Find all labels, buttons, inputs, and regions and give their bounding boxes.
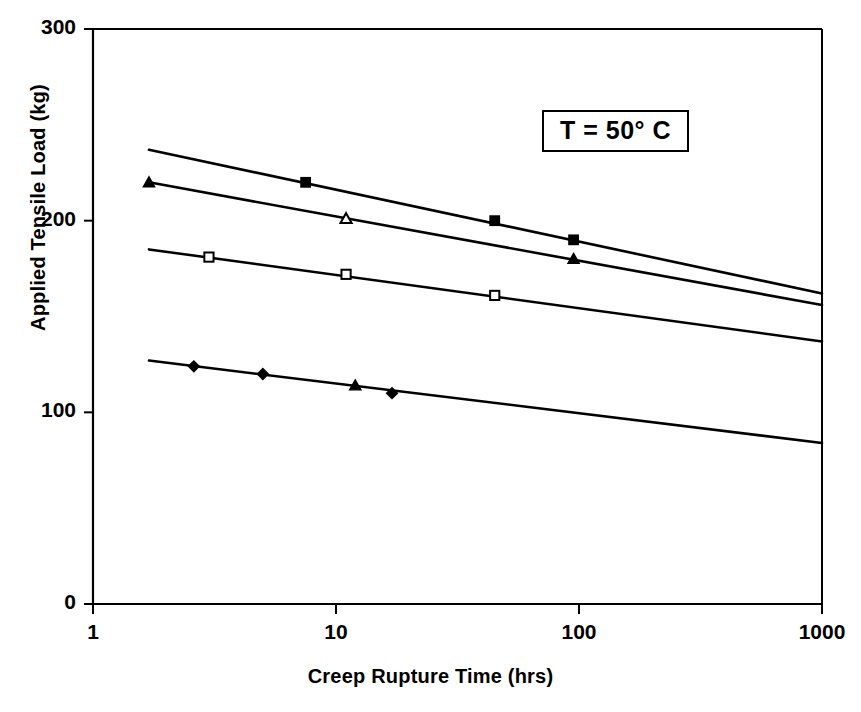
marker-filled-square — [490, 216, 499, 225]
marker-filled-diamond — [188, 361, 199, 372]
x-tick-label: 1 — [53, 620, 133, 644]
series-series-2 — [143, 177, 822, 305]
marker-open-triangle — [340, 213, 351, 223]
marker-open-square — [341, 270, 350, 279]
chart-plot-area — [0, 0, 861, 712]
marker-filled-square — [301, 178, 310, 187]
series-series-3 — [149, 249, 822, 341]
temperature-annotation: T = 50° C — [542, 110, 689, 152]
marker-open-square — [204, 252, 213, 261]
trend-line — [149, 150, 822, 294]
marker-open-square — [490, 291, 499, 300]
series-series-4 — [149, 361, 822, 443]
marker-filled-square — [569, 235, 578, 244]
y-tick-label: 0 — [6, 590, 76, 614]
marker-filled-triangle — [143, 177, 154, 187]
x-tick-label: 100 — [539, 620, 619, 644]
y-axis-title: Applied Tensile Load (kg) — [27, 78, 50, 338]
trend-line — [149, 361, 822, 443]
chart-container: 0100200300 1101001000 Applied Tensile Lo… — [0, 0, 861, 712]
x-axis-title: Creep Rupture Time (hrs) — [0, 665, 861, 688]
series-group — [143, 150, 822, 443]
x-tick-label: 10 — [296, 620, 376, 644]
x-tick-label: 1000 — [782, 620, 861, 644]
series-series-1 — [149, 150, 822, 294]
y-tick-label: 100 — [6, 398, 76, 422]
axes-group — [84, 29, 822, 614]
trend-line — [149, 182, 822, 305]
marker-filled-diamond — [257, 369, 268, 380]
trend-line — [149, 249, 822, 341]
y-tick-label: 300 — [6, 15, 76, 39]
